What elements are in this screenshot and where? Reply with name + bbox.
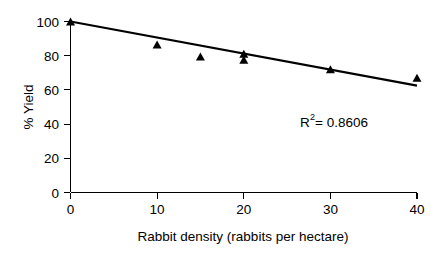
x-tick-label-30: 30 <box>323 202 338 217</box>
data-point-marker <box>196 52 205 60</box>
data-point-markers <box>66 18 422 82</box>
chart-figure: 100 80 60 40 20 0 0 10 20 30 40 Rabbit d… <box>0 0 440 265</box>
x-tick-label-0: 0 <box>67 202 75 217</box>
y-tick-label-80: 80 <box>44 49 59 64</box>
x-axis-tick-labels: 0 10 20 30 40 <box>67 202 425 217</box>
data-point-marker <box>413 74 422 82</box>
axis-lines <box>71 21 418 193</box>
y-axis-title: % Yield <box>21 84 36 129</box>
x-axis-title: Rabbit density (rabbits per hectare) <box>138 229 349 244</box>
r-squared-base: R <box>300 115 310 130</box>
x-tick-label-20: 20 <box>236 202 251 217</box>
r-squared-annotation: R 2 = 0.8606 <box>300 112 368 130</box>
x-tick-label-40: 40 <box>409 202 424 217</box>
r-squared-value: = 0.8606 <box>315 115 368 130</box>
data-point-marker <box>153 40 162 48</box>
y-axis-ticks <box>64 22 70 193</box>
y-tick-label-20: 20 <box>44 151 59 166</box>
y-tick-label-60: 60 <box>44 83 59 98</box>
y-tick-label-0: 0 <box>51 186 59 201</box>
y-axis-tick-labels: 100 80 60 40 20 0 <box>36 15 59 201</box>
x-tick-label-10: 10 <box>150 202 165 217</box>
scatter-plot-svg: 100 80 60 40 20 0 0 10 20 30 40 Rabbit d… <box>0 0 440 265</box>
y-tick-label-100: 100 <box>36 15 59 30</box>
y-tick-label-40: 40 <box>44 117 59 132</box>
x-axis-ticks <box>71 193 418 199</box>
